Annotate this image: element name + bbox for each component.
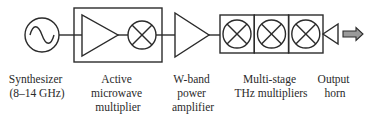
w-band-amplifier-triangle-icon [175,13,209,57]
multiplier-icon [292,20,320,48]
thz-multipliers-block [220,15,323,53]
w-band-amplifier-label: W-band power amplifier [172,73,214,114]
synthesizer-label: Synthesizer (8–14 GHz) [9,73,66,100]
synthesizer-block [25,18,59,52]
multiplier-icon [258,20,286,48]
output-horn-label: Output horn [318,73,353,99]
active-multiplier-label: Active microwave multiplier [91,73,145,114]
multiplier-icon [223,20,251,48]
output-arrow-icon [343,28,363,41]
thz-multipliers-label: Multi-stage THz multipliers [234,73,308,100]
horn-antenna-icon [323,24,338,44]
amplifier-triangle-icon [82,15,118,56]
active-multiplier-block [74,8,175,62]
sine-wave-icon [30,27,54,44]
block-diagram: Synthesizer (8–14 GHz) Active microwave … [0,0,381,120]
mixer-icon [128,21,156,49]
